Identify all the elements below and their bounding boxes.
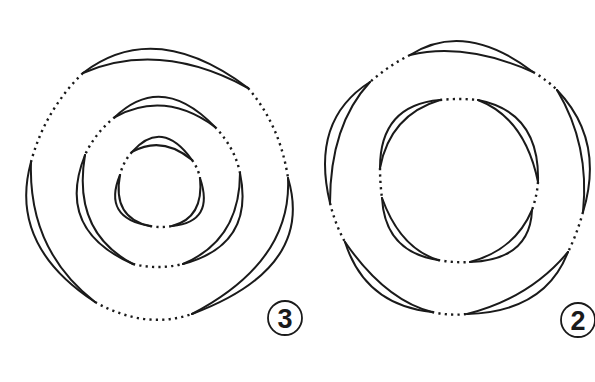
ring-diagram: 3	[0, 0, 595, 382]
crescent-bottom-right-inner	[470, 210, 532, 262]
outer-ring	[325, 41, 590, 315]
dotted-segment	[120, 152, 132, 175]
crescent-right	[183, 173, 243, 264]
dotted-segment	[440, 99, 478, 100]
crescent-left-inner	[83, 155, 133, 264]
crescent-right-inner	[192, 178, 288, 314]
crescent-bottom-left	[382, 198, 438, 260]
dotted-segment	[568, 212, 583, 252]
diagram-canvas: 3	[0, 0, 595, 382]
dotted-segment	[532, 182, 538, 210]
crescent-left-inner	[31, 162, 95, 302]
dotted-segment	[31, 73, 83, 162]
dotted-segment	[248, 88, 288, 178]
inner-ring	[380, 99, 538, 262]
crescent-left	[325, 82, 370, 203]
crescent-top-inner	[83, 60, 248, 88]
crescent-top	[115, 97, 215, 127]
crescent-left-inner	[330, 82, 370, 203]
crescent-right-inner	[183, 173, 240, 264]
crescent-left-inner	[119, 175, 150, 226]
label-number: 3	[277, 304, 292, 334]
dotted-segment	[215, 127, 240, 173]
crescent-top-right	[478, 100, 538, 182]
figure-label-3: 3	[268, 301, 302, 335]
dotted-segment	[85, 117, 115, 155]
dotted-segment	[330, 203, 345, 242]
crescent-top-inner	[132, 145, 192, 160]
dotted-segment	[438, 260, 470, 262]
dotted-segment	[380, 168, 382, 198]
dotted-segment	[133, 264, 183, 267]
crescent-top-left-inner	[380, 100, 440, 168]
crescent-top-inner	[115, 106, 215, 127]
label-number: 2	[570, 306, 585, 336]
crescent-top-inner	[410, 51, 533, 72]
figure-2: 2	[325, 41, 595, 337]
dotted-segment	[95, 302, 192, 320]
dotted-segment	[533, 72, 557, 90]
crescent-bottom-left	[345, 242, 432, 312]
crescent-right-inner	[172, 178, 200, 226]
inner-ring	[115, 137, 204, 227]
middle-ring	[77, 97, 243, 267]
dotted-segment	[432, 312, 467, 315]
figure-label-2: 2	[561, 303, 595, 337]
crescent-bottom-left-inner	[345, 242, 432, 312]
crescent-left	[26, 162, 95, 302]
crescent-bottom-right	[470, 210, 532, 262]
crescent-top-left	[380, 100, 440, 168]
dotted-segment	[150, 226, 172, 227]
crescent-top	[410, 41, 533, 72]
dotted-segment	[192, 160, 200, 178]
dotted-segment	[370, 55, 410, 82]
crescent-top	[83, 49, 248, 88]
figure-3: 3	[26, 49, 302, 335]
outer-ring	[26, 49, 293, 320]
